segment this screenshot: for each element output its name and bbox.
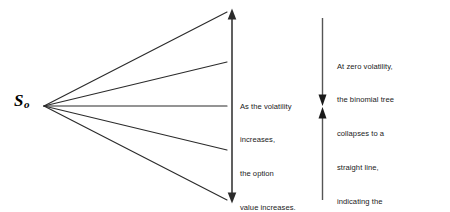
note-line: increases, xyxy=(240,134,296,145)
zero-volatility-collapse-arrow xyxy=(319,18,327,200)
note-line: indicating the xyxy=(337,196,400,207)
fan-ray-lower-mid xyxy=(44,106,227,150)
collapse-arrowhead-down xyxy=(319,95,327,107)
spread-arrowhead-bottom xyxy=(228,193,237,204)
note-line: value increases. xyxy=(240,202,296,212)
volatility-increase-note: As the volatility increases, the option … xyxy=(240,78,296,212)
fan-ray-lower-extreme xyxy=(44,106,227,200)
collapse-arrowhead-up xyxy=(319,107,327,119)
note-line: the binomial tree xyxy=(337,94,400,105)
note-line: As the volatility xyxy=(240,101,296,112)
zero-volatility-note: At zero volatility, the binomial tree co… xyxy=(337,38,400,212)
volatility-spread-arrow xyxy=(228,9,237,204)
spot-symbol: S xyxy=(14,91,23,110)
fan-rays xyxy=(44,12,227,200)
fan-ray-upper-extreme xyxy=(44,12,227,106)
figure-canvas: So As the volatility increases, the opti… xyxy=(0,0,450,212)
spot-subscript: o xyxy=(24,98,30,110)
initial-asset-price-label: So xyxy=(14,92,29,109)
fan-ray-upper-mid xyxy=(44,62,227,106)
note-line: straight line, xyxy=(337,162,400,173)
note-line: the option xyxy=(240,168,296,179)
spread-arrowhead-top xyxy=(228,9,237,20)
note-line: At zero volatility, xyxy=(337,61,400,72)
note-line: collapses to a xyxy=(337,128,400,139)
